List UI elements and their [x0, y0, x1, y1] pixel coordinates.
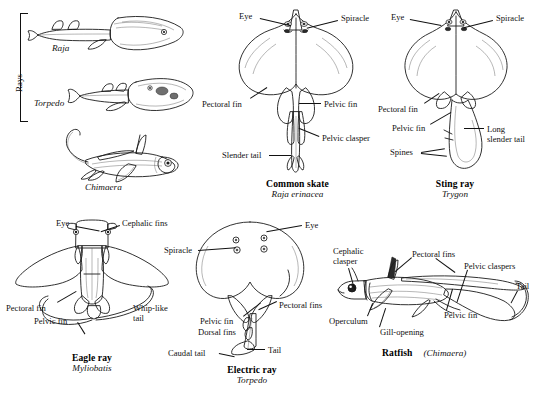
skate-leader-slender-tail	[269, 155, 291, 156]
ratfish-label-pectoral-fins: Pectoral fins	[412, 249, 455, 259]
torpedo-lateral-figure	[62, 72, 197, 120]
eagleray-label-whip-like-tail-line2: tail	[133, 313, 144, 323]
eagle-ray-scientific-name: Myliobatis	[42, 363, 142, 373]
ratfish-label-pelvic-fin: Pelvic fin	[444, 310, 477, 320]
ratfish-common-name: Ratfish	[382, 347, 413, 358]
stingray-label-long-slender-tail: Long slender tail	[487, 124, 535, 144]
eagle-ray-common-name: Eagle ray	[42, 352, 142, 363]
raja-lateral-figure	[26, 10, 186, 60]
skate-label-slender-tail: Slender tail	[222, 150, 261, 160]
skate-label-pelvic-clasper: Pelvic clasper	[322, 133, 370, 143]
sting-ray-scientific-name: Trygon	[405, 189, 505, 199]
sting-ray-common-name: Sting ray	[405, 178, 505, 189]
electricray-leader-tail	[247, 349, 265, 350]
ratfish-label-cephalic-clasper-line2: clasper	[333, 256, 357, 266]
ratfish-scientific-name: (Chimaera)	[424, 348, 467, 358]
electricray-label-caudal-tail: Caudal tail	[168, 348, 205, 358]
ratfish-label-cephalic-clasper: Cephalic clasper	[333, 246, 379, 266]
electricray-label-pectoral-fins: Pectoral fins	[279, 300, 322, 310]
electricray-label-pelvic-fin: Pelvic fin	[200, 316, 233, 326]
common-skate-scientific-name: Raja erinacea	[245, 189, 350, 199]
ratfish-label-operculum: Operculum	[329, 316, 368, 326]
eagleray-label-pelvic-fin: Pelvic fin	[34, 316, 67, 326]
skate-label-spiracle: Spiracle	[341, 13, 369, 23]
electricray-label-eye: Eye	[305, 220, 318, 230]
chimaera-lateral-figure	[58, 126, 188, 184]
ratfish-label-tail: Tail	[516, 281, 529, 291]
eagleray-label-eye: Eye	[56, 218, 69, 228]
common-skate-caption: Common skate Raja erinacea	[245, 178, 350, 199]
illustration-plate: Rays	[0, 0, 535, 396]
raja-scientific-name: Raja	[52, 43, 69, 53]
skate-leader-pelvic-fin	[299, 103, 321, 104]
eagle-ray-figure	[12, 218, 172, 346]
ratfish-label-pelvic-claspers: Pelvic claspers	[464, 261, 515, 271]
rays-group-label: Rays	[14, 74, 24, 92]
electric-ray-scientific-name: Torpedo	[197, 375, 307, 385]
electricray-label-tail: Tail	[268, 345, 281, 355]
eagleray-label-whip-like-tail-line1: Whip-like	[133, 303, 168, 313]
chimaera-scientific-name: Chimaera	[85, 182, 122, 192]
electric-ray-caption: Electric ray Torpedo	[197, 364, 307, 385]
eagleray-label-pectoral-fin: Pectoral fin	[6, 303, 46, 313]
stingray-label-spiracle: Spiracle	[496, 13, 524, 23]
ratfish-label-cephalic-clasper-line1: Cephalic	[333, 246, 364, 256]
sting-ray-caption: Sting ray Trygon	[405, 178, 505, 199]
stingray-label-long-slender-tail-line1: Long	[487, 124, 505, 134]
stingray-label-pectoral-fin: Pectoral fin	[378, 104, 418, 114]
stingray-label-pelvic-fin: Pelvic fin	[392, 123, 425, 133]
stingray-leader-long-slender-tail	[464, 128, 484, 129]
sting-ray-figure	[400, 8, 510, 176]
stingray-label-long-slender-tail-line2: slender tail	[487, 134, 525, 144]
ratfish-label-gill-opening: Gill-opening	[380, 327, 424, 337]
electric-ray-common-name: Electric ray	[197, 364, 307, 375]
eagle-ray-caption: Eagle ray Myliobatis	[42, 352, 142, 373]
skate-label-pectoral-fin: Pectoral fin	[202, 99, 242, 109]
stingray-label-spines: Spines	[390, 147, 413, 157]
electricray-label-dorsal-fins: Dorsal fins	[198, 327, 236, 337]
eagleray-label-whip-like-tail: Whip-like tail	[133, 303, 177, 323]
torpedo-lateral-scientific-name: Torpedo	[34, 98, 64, 108]
common-skate-common-name: Common skate	[245, 178, 350, 189]
skate-label-pelvic-fin: Pelvic fin	[324, 99, 357, 109]
electricray-label-spiracle: Spiracle	[164, 245, 192, 255]
stingray-label-eye: Eye	[391, 12, 404, 22]
eagleray-label-cephalic-fins: Cephalic fins	[122, 218, 168, 228]
skate-label-eye: Eye	[239, 11, 252, 21]
ratfish-caption: Ratfish (Chimaera)	[382, 342, 466, 360]
